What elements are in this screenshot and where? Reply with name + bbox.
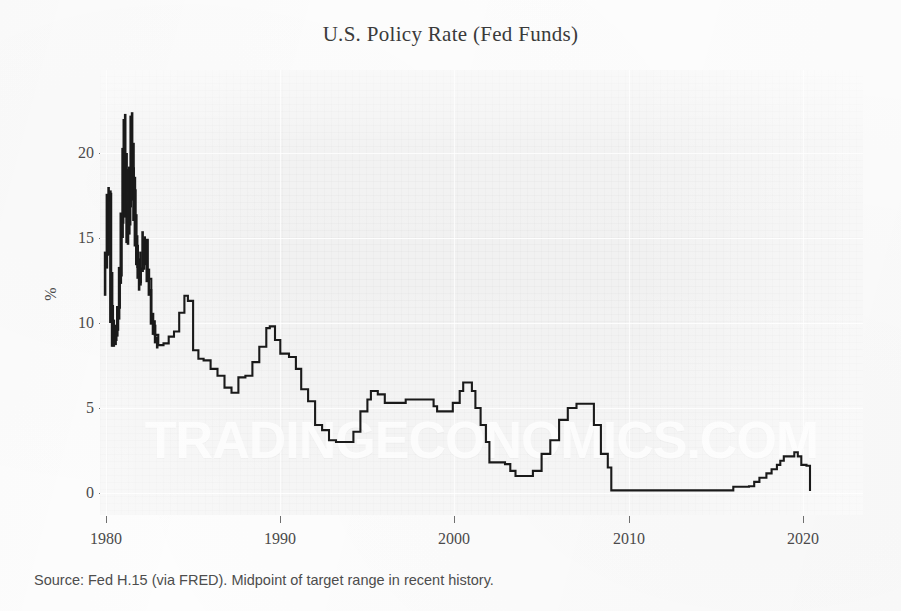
x-tick-mark-1990 (280, 516, 281, 523)
y-tick-label-15: 15 (60, 229, 94, 247)
x-tick-mark-2010 (629, 516, 630, 523)
x-tick-label-2020: 2020 (768, 530, 838, 548)
chart-caption: Source: Fed H.15 (via FRED). Midpoint of… (34, 572, 494, 588)
x-tick-mark-1980 (106, 516, 107, 523)
chart-title: U.S. Policy Rate (Fed Funds) (0, 22, 901, 47)
fed-funds-series (100, 70, 863, 515)
y-tick-label-0: 0 (60, 484, 94, 502)
y-tick-label-10: 10 (60, 314, 94, 332)
x-tick-label-2010: 2010 (594, 530, 664, 548)
x-tick-mark-2000 (454, 516, 455, 523)
x-tick-mark-2020 (803, 516, 804, 523)
y-tick-label-20: 20 (60, 144, 94, 162)
x-tick-label-1980: 1980 (71, 530, 141, 548)
y-tick-label-5: 5 (60, 399, 94, 417)
fed-funds-line (104, 168, 810, 491)
chart-page: U.S. Policy Rate (Fed Funds) 20 15 10 5 … (0, 0, 901, 611)
plot-area: TRADINGECONOMICS.COM (100, 70, 863, 515)
y-axis-label: % (42, 287, 60, 300)
x-tick-label-1990: 1990 (245, 530, 315, 548)
x-tick-label-2000: 2000 (419, 530, 489, 548)
